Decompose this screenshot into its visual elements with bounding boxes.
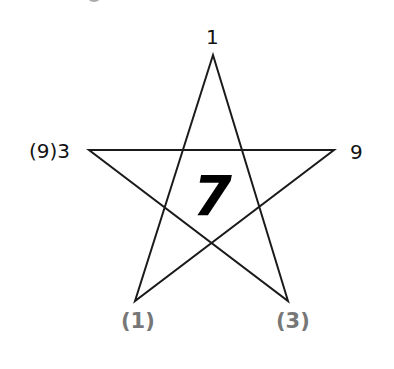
vertex-label-top: 1 [206, 27, 219, 47]
vertex-label-left: (9)3 [29, 141, 70, 161]
pentagram-diagram: 1 (9)3 9 (1) (3) 7 [0, 0, 394, 369]
vertex-label-right: 9 [350, 142, 363, 162]
vertex-label-bottom-right: (3) [276, 311, 310, 332]
center-value: 7 [193, 168, 232, 224]
vertex-label-bottom-left: (1) [121, 311, 155, 332]
